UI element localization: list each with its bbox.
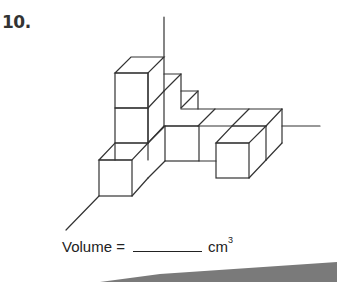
footer-band	[0, 0, 337, 282]
